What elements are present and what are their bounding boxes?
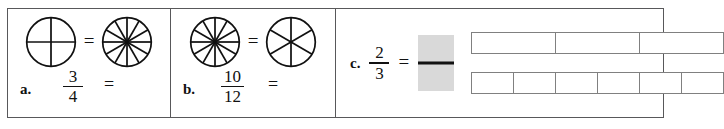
problem-b-numerator: 10	[221, 68, 244, 86]
problem-a-numerator: 3	[66, 68, 81, 86]
problem-b-equals: =	[268, 74, 278, 95]
problem-a-fraction: 3 4	[63, 68, 83, 106]
bar-cell[interactable]	[556, 73, 598, 93]
problem-b-diagram: =	[171, 13, 335, 71]
problem-c-denominator: 3	[372, 64, 387, 82]
problem-panel-b: = b. 10 12 =	[171, 9, 336, 117]
bar-cell[interactable]	[472, 33, 556, 53]
problem-panel-c: c. 2 3 =	[336, 9, 663, 117]
problem-a-equals: =	[104, 74, 114, 95]
pie-circle-icon	[100, 15, 154, 69]
problem-a-statement: a. 3 4 =	[8, 65, 170, 109]
blank-fraction-placeholder-icon[interactable]	[418, 35, 454, 91]
bar-cell[interactable]	[472, 73, 514, 93]
problem-c-numerator: 2	[372, 44, 387, 62]
problem-c-fraction: 2 3	[369, 44, 389, 82]
bar-cell[interactable]	[514, 73, 556, 93]
bar-cell[interactable]	[640, 73, 682, 93]
problem-a-diagram-equals: =	[84, 31, 95, 54]
bar-cell[interactable]	[682, 73, 723, 93]
bar-model-sixths[interactable]	[471, 72, 724, 94]
bar-cell[interactable]	[598, 73, 640, 93]
fraction-bar-icon	[418, 62, 454, 65]
problem-b-denominator: 12	[221, 87, 244, 105]
problem-a-diagram: =	[8, 13, 170, 71]
pie-circle-icon	[264, 15, 318, 69]
bar-cell[interactable]	[640, 33, 723, 53]
worksheet-container: = a.	[7, 8, 664, 118]
problem-c-label: c.	[350, 55, 360, 72]
bar-cell[interactable]	[556, 33, 640, 53]
pie-circle-icon	[188, 15, 242, 69]
problem-b-label: b.	[183, 81, 195, 98]
problem-a-denominator: 4	[66, 87, 81, 105]
problem-c-statement: c. 2 3 =	[350, 9, 454, 117]
problem-panel-a: = a.	[8, 9, 171, 117]
problem-b-fraction: 10 12	[221, 68, 244, 106]
problem-a-label: a.	[20, 81, 31, 98]
bar-model-thirds[interactable]	[471, 32, 724, 54]
problem-c-equals: =	[398, 52, 409, 75]
problem-b-statement: b. 10 12 =	[171, 65, 335, 109]
pie-circle-icon	[24, 15, 78, 69]
problem-c-bar-models	[471, 9, 655, 117]
problem-b-diagram-equals: =	[248, 31, 259, 54]
